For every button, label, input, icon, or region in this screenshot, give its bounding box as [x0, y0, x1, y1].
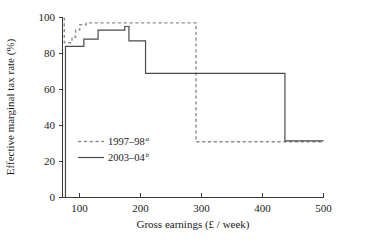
- legend-label-1997-98: 1997–98: [108, 136, 145, 147]
- legend-label-2003-04: 2003–04: [108, 152, 146, 163]
- series-line-2003-04: [65, 27, 323, 198]
- x-tick-label-300: 300: [193, 202, 210, 214]
- y-tick-label-20: 20: [44, 155, 56, 167]
- x-tick-label-100: 100: [71, 202, 88, 214]
- x-axis-ticks: [80, 193, 324, 198]
- x-tick-label-200: 200: [132, 202, 149, 214]
- y-tick-label-80: 80: [44, 47, 56, 59]
- y-tick-label-60: 60: [44, 83, 56, 95]
- x-tick-label-400: 400: [254, 202, 271, 214]
- chart-legend: 1997–98 a 2003–04 b: [78, 135, 150, 164]
- legend-superscript-a: a: [146, 135, 150, 143]
- y-axis-ticks: [59, 18, 63, 198]
- chart-figure: 0 20 40 60 80 100 100 200 300 400 500 Gr…: [0, 0, 380, 244]
- x-tick-label-500: 500: [315, 202, 332, 214]
- x-axis-title: Gross earnings (£ / week): [136, 218, 249, 231]
- y-tick-label-0: 0: [50, 191, 56, 203]
- chart-canvas: 0 20 40 60 80 100 100 200 300 400 500 Gr…: [0, 0, 380, 244]
- y-tick-label-100: 100: [39, 11, 56, 23]
- y-axis-title: Effective marginal tax rate (%): [4, 38, 17, 175]
- x-axis-tick-labels: 100 200 300 400 500: [71, 202, 332, 214]
- y-tick-label-40: 40: [44, 119, 56, 131]
- y-axis-tick-labels: 0 20 40 60 80 100: [39, 11, 56, 203]
- legend-superscript-b: b: [146, 151, 150, 159]
